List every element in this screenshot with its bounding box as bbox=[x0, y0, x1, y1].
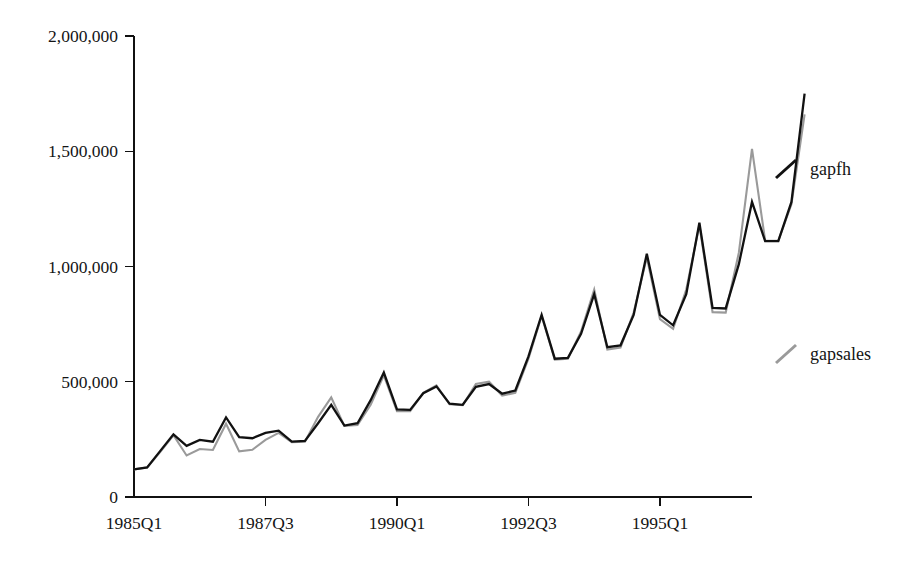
legend-swatch-gapfh bbox=[776, 160, 796, 178]
x-tick-label: 1995Q1 bbox=[632, 513, 688, 533]
x-axis-ticks: 1985Q11987Q31990Q11992Q31995Q1 bbox=[106, 497, 688, 533]
y-axis-ticks: 0500,0001,000,0001,500,0002,000,000 bbox=[48, 26, 134, 507]
legend-label-gapsales: gapsales bbox=[810, 344, 871, 364]
chart-legend: gapfhgapsales bbox=[776, 159, 871, 364]
x-tick-label: 1985Q1 bbox=[106, 513, 162, 533]
line-chart: 0500,0001,000,0001,500,0002,000,000 1985… bbox=[0, 0, 909, 572]
legend-label-gapfh: gapfh bbox=[810, 159, 851, 179]
chart-page: 0500,0001,000,0001,500,0002,000,000 1985… bbox=[0, 0, 909, 572]
y-tick-label: 1,000,000 bbox=[48, 257, 118, 277]
x-tick-label: 1990Q1 bbox=[369, 513, 425, 533]
x-tick-label: 1987Q3 bbox=[237, 513, 294, 533]
x-tick-label: 1992Q3 bbox=[500, 513, 557, 533]
y-tick-label: 2,000,000 bbox=[48, 26, 118, 46]
y-tick-label: 500,000 bbox=[61, 372, 118, 392]
series-group bbox=[134, 94, 805, 470]
legend-swatch-gapsales bbox=[776, 345, 796, 363]
series-line-gapfh bbox=[134, 94, 805, 470]
y-tick-label: 0 bbox=[109, 487, 118, 507]
y-tick-label: 1,500,000 bbox=[48, 141, 118, 161]
series-line-gapsales bbox=[134, 114, 805, 469]
